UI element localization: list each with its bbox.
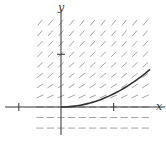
- slope-segment: [133, 20, 137, 25]
- slope-segments: [37, 20, 149, 128]
- slope-segment: [143, 41, 147, 46]
- slope-segment: [112, 20, 116, 25]
- slope-segment: [69, 73, 74, 77]
- slope-segment: [122, 20, 126, 25]
- slope-segment: [111, 84, 116, 87]
- slope-segment: [37, 95, 43, 98]
- slope-segment: [122, 31, 126, 36]
- slope-segment: [80, 20, 84, 25]
- slope-segment: [90, 41, 94, 46]
- y-axis-label: y: [57, 1, 65, 14]
- slope-segment: [133, 31, 137, 36]
- slope-segment: [48, 52, 53, 57]
- slope-segment: [132, 84, 137, 87]
- slope-segment: [80, 73, 85, 77]
- slope-segment: [38, 31, 42, 36]
- slope-segment: [143, 20, 147, 25]
- slope-segment: [48, 20, 52, 25]
- slope-segment: [79, 95, 85, 98]
- slope-segment: [69, 31, 73, 36]
- slope-segment: [37, 84, 42, 87]
- slope-segment: [101, 52, 106, 57]
- slope-segment: [80, 52, 85, 57]
- slope-segment: [132, 63, 137, 67]
- slope-segment: [142, 95, 148, 98]
- slope-segment: [122, 63, 127, 67]
- slope-segment: [38, 63, 43, 67]
- slope-segment: [101, 73, 106, 77]
- slope-segment: [133, 41, 137, 46]
- slope-segment: [69, 95, 75, 98]
- slope-segment: [90, 63, 95, 67]
- slope-segment: [143, 84, 148, 87]
- slope-segment: [69, 63, 74, 67]
- slope-segment: [48, 73, 53, 77]
- slope-segment: [101, 20, 105, 25]
- slope-segment: [80, 41, 84, 46]
- slope-segment: [80, 63, 85, 67]
- slope-segment: [132, 95, 138, 98]
- slope-segment: [133, 52, 138, 57]
- slope-segment: [69, 52, 74, 57]
- slope-segment: [132, 73, 137, 77]
- x-axis-label: x: [156, 100, 163, 113]
- slope-segment: [101, 41, 105, 46]
- slope-field-diagram: x y: [0, 0, 166, 145]
- slope-segment: [90, 73, 95, 77]
- slope-segment: [90, 84, 95, 87]
- slope-segment: [111, 63, 116, 67]
- slope-segment: [122, 52, 127, 57]
- slope-segment: [90, 52, 95, 57]
- slope-segment: [122, 41, 126, 46]
- slope-segment: [111, 52, 116, 57]
- axis-ticks: [19, 54, 114, 111]
- slope-segment: [69, 84, 74, 87]
- slope-segment: [101, 31, 105, 36]
- slope-segment: [38, 20, 42, 25]
- slope-segment: [37, 73, 42, 77]
- slope-segment: [69, 41, 73, 46]
- slope-segment: [38, 52, 43, 57]
- slope-segment: [48, 31, 52, 36]
- slope-segment: [48, 84, 53, 87]
- slope-segment: [112, 41, 116, 46]
- slope-segment: [143, 31, 147, 36]
- slope-segment: [143, 63, 148, 67]
- slope-segment: [91, 31, 95, 36]
- slope-segment: [79, 84, 84, 87]
- slope-segment: [121, 95, 127, 98]
- slope-segment: [143, 52, 148, 57]
- slope-segment: [80, 31, 84, 36]
- solution-curve: [61, 69, 150, 107]
- slope-segment: [91, 20, 95, 25]
- slope-segment: [48, 95, 54, 98]
- slope-segment: [112, 31, 116, 36]
- slope-segment: [100, 84, 105, 87]
- slope-segment: [111, 73, 116, 77]
- slope-segment: [48, 63, 53, 67]
- slope-segment: [90, 95, 96, 98]
- slope-segment: [122, 73, 127, 77]
- slope-segment: [48, 41, 52, 46]
- slope-segment: [70, 20, 74, 25]
- slope-segment: [101, 63, 106, 67]
- slope-segment: [38, 41, 42, 46]
